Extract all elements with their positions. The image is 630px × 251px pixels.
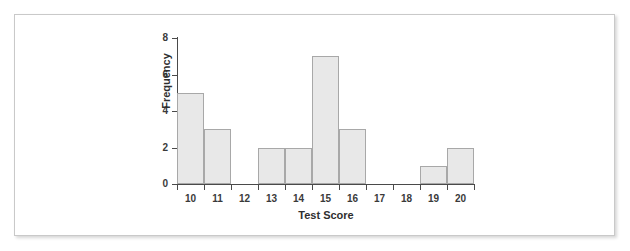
x-axis-tick-label: 10 xyxy=(177,193,204,204)
y-axis-tick-label: 2 xyxy=(148,143,168,153)
x-axis-tick-label: 19 xyxy=(420,193,447,204)
x-axis-tick xyxy=(231,185,232,190)
x-axis-tick xyxy=(420,185,421,190)
x-axis-tick xyxy=(474,185,475,190)
figure-frame: 02468 1011121314151617181920 Frequency T… xyxy=(14,14,615,236)
x-axis-tick-label: 17 xyxy=(366,193,393,204)
x-axis-tick-label: 11 xyxy=(204,193,231,204)
plot-area xyxy=(177,38,474,184)
page-root: 02468 1011121314151617181920 Frequency T… xyxy=(0,0,630,251)
x-axis-tick xyxy=(285,185,286,190)
x-axis-tick-label: 14 xyxy=(285,193,312,204)
histogram-bar xyxy=(285,148,312,185)
histogram-bar xyxy=(420,166,447,184)
x-axis-tick xyxy=(258,185,259,190)
x-axis-tick xyxy=(312,185,313,190)
x-axis-tick xyxy=(339,185,340,190)
histogram-bar xyxy=(339,129,366,184)
histogram-bar xyxy=(177,93,204,184)
histogram-bar xyxy=(447,148,474,185)
x-axis-title: Test Score xyxy=(177,209,475,221)
histogram-bar xyxy=(204,129,231,184)
x-axis-tick-label: 15 xyxy=(312,193,339,204)
histogram-bar xyxy=(312,56,339,184)
x-axis-tick xyxy=(177,185,178,190)
x-axis-tick xyxy=(447,185,448,190)
y-axis-title: Frequency xyxy=(160,41,172,121)
histogram-chart: 02468 1011121314151617181920 Frequency T… xyxy=(15,15,616,237)
x-axis-tick xyxy=(393,185,394,190)
y-axis-tick-label: 0 xyxy=(148,179,168,189)
x-axis-tick-label: 16 xyxy=(339,193,366,204)
x-axis-line xyxy=(177,184,475,185)
x-axis-tick-label: 12 xyxy=(231,193,258,204)
x-axis-tick xyxy=(366,185,367,190)
x-axis-tick-label: 13 xyxy=(258,193,285,204)
histogram-bar xyxy=(258,148,285,185)
x-axis-tick xyxy=(204,185,205,190)
x-axis-tick-label: 18 xyxy=(393,193,420,204)
x-axis-tick-label: 20 xyxy=(447,193,474,204)
